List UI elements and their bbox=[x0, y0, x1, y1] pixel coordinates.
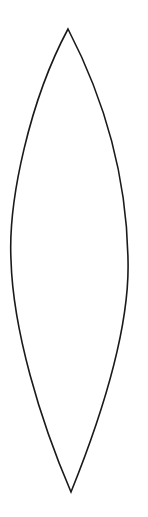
lens-outline bbox=[11, 29, 128, 492]
lens-shape-figure bbox=[0, 0, 148, 517]
